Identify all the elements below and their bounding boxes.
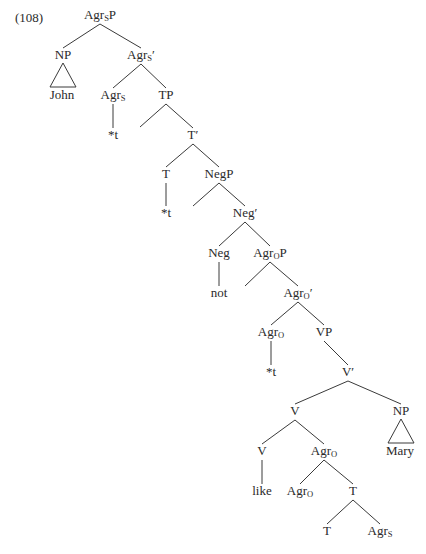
tree-branch	[219, 183, 245, 206]
tree-node-t3: *t	[266, 365, 276, 379]
tree-branch	[262, 420, 295, 444]
tree-branch	[298, 302, 324, 325]
tree-node-tbar: T′	[188, 128, 199, 142]
tree-node-v2: V	[257, 444, 266, 458]
tree-branch	[245, 262, 270, 286]
tree-node-neg: Neg	[208, 246, 230, 260]
tree-node-negbar: Neg′	[233, 206, 258, 220]
tree-branch	[300, 460, 324, 484]
tree-branch	[295, 381, 348, 404]
tree-node-agro1: AgrO	[258, 325, 284, 339]
tree-branch	[113, 64, 141, 88]
tree-branch	[245, 222, 270, 246]
tree-branch	[140, 104, 166, 127]
tree-branch	[270, 262, 298, 286]
tree-branch	[348, 381, 401, 404]
tree-branch	[271, 302, 298, 325]
tree-branch	[219, 222, 245, 246]
tree-node-np1: NP	[55, 48, 72, 62]
tree-branches	[0, 0, 426, 554]
tree-branch	[100, 24, 141, 48]
tree-node-mary: Mary	[386, 444, 414, 458]
tree-node-v1: V	[290, 404, 299, 418]
tree-node-agrsp: AgrSP	[84, 8, 116, 22]
tree-node-t3: T	[323, 524, 331, 538]
tree-branch	[295, 420, 324, 444]
triangle-abbreviation	[388, 419, 414, 443]
tree-branch	[63, 24, 100, 48]
tree-node-agro2: AgrO	[311, 444, 337, 458]
tree-branch	[353, 500, 380, 524]
tree-node-np2: NP	[393, 404, 410, 418]
tree-node-t2: *t	[161, 206, 171, 220]
tree-node-not: not	[211, 286, 228, 300]
tree-node-agrop: AgrOP	[253, 246, 287, 260]
tree-node-t2: T	[349, 484, 357, 498]
tree-node-agrs2: AgrS	[368, 524, 393, 538]
example-number: (108)	[15, 10, 43, 26]
tree-node-t1: *t	[108, 128, 118, 142]
tree-node-agrs: AgrS	[101, 88, 126, 102]
tree-node-like: like	[252, 484, 272, 498]
tree-branch	[166, 144, 193, 167]
tree-node-agro3: AgrO	[287, 484, 313, 498]
tree-node-agrsbar: AgrS′	[127, 48, 155, 62]
tree-node-vp: VP	[316, 325, 333, 339]
tree-branch	[327, 500, 353, 524]
tree-branch	[166, 104, 193, 128]
triangle-abbreviation	[50, 63, 76, 87]
tree-node-john: John	[50, 88, 75, 102]
tree-branch	[141, 64, 166, 88]
tree-node-tp: TP	[158, 88, 173, 102]
syntax-tree: (108) AgrSPNPJohnAgrS′AgrS*tTPT′T*tNegPN…	[0, 0, 426, 554]
tree-branch	[193, 183, 219, 206]
tree-node-vbar: V′	[342, 365, 354, 379]
tree-node-t1: T	[162, 167, 170, 181]
tree-node-negp: NegP	[205, 167, 234, 181]
tree-node-agrobar: AgrO′	[283, 286, 312, 300]
tree-branch	[324, 341, 348, 365]
tree-branch	[193, 144, 219, 167]
tree-branch	[324, 460, 353, 484]
